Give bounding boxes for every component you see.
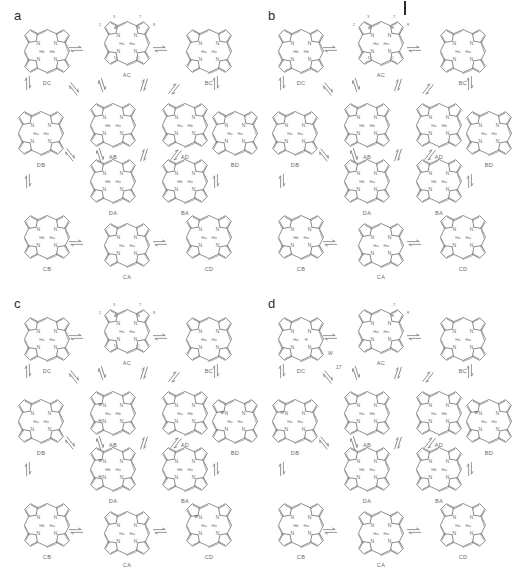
svg-text:Ha: Ha — [130, 41, 136, 46]
equilibrium-arrow — [66, 372, 82, 382]
svg-text:Ha: Ha — [238, 419, 244, 424]
svg-text:N: N — [103, 458, 107, 464]
svg-text:N: N — [48, 122, 52, 128]
equilibrium-arrow — [68, 526, 84, 536]
svg-text:N: N — [429, 114, 433, 120]
svg-text:Hb: Hb — [293, 49, 299, 54]
equilibrium-arrow — [406, 238, 422, 248]
svg-text:N: N — [120, 186, 124, 192]
svg-text:Ha: Ha — [50, 523, 56, 528]
svg-text:N: N — [199, 40, 203, 46]
svg-text:N: N — [446, 474, 450, 480]
svg-text:N: N — [120, 170, 124, 176]
svg-text:N: N — [470, 226, 474, 232]
svg-text:N: N — [31, 122, 35, 128]
svg-text:N: N — [199, 514, 203, 520]
svg-text:N: N — [216, 530, 220, 536]
svg-text:Hb: Hb — [116, 411, 122, 416]
svg-text:Ha: Ha — [442, 467, 448, 472]
tautomer-node-cd: NNNNHaHaCD — [424, 208, 502, 280]
svg-text:N: N — [216, 344, 220, 350]
tautomer-node-cd: NNNNHaHaCD — [170, 208, 248, 280]
svg-text:N: N — [120, 458, 124, 464]
svg-text:N: N — [37, 328, 41, 334]
svg-text:⊕: ⊕ — [98, 401, 102, 407]
svg-text:Ha: Ha — [492, 131, 498, 136]
svg-text:Ha: Ha — [130, 531, 136, 536]
svg-text:N: N — [496, 410, 500, 416]
svg-text:N: N — [479, 426, 483, 432]
svg-text:N: N — [453, 530, 457, 536]
svg-text:Ha: Ha — [384, 41, 390, 46]
svg-text:Hb: Hb — [39, 49, 45, 54]
svg-text:N: N — [291, 328, 295, 334]
svg-text:Ha: Ha — [293, 337, 299, 342]
svg-text:N: N — [374, 418, 378, 424]
svg-text:N: N — [134, 320, 138, 326]
equilibrium-arrow — [20, 176, 36, 186]
svg-text:Ha: Ha — [431, 123, 437, 128]
svg-text:N: N — [470, 242, 474, 248]
svg-text:N: N — [103, 170, 107, 176]
svg-text:N: N — [388, 32, 392, 38]
svg-text:⊕: ⊕ — [98, 457, 102, 463]
equilibrium-arrow — [152, 44, 168, 54]
svg-text:H: H — [305, 337, 308, 342]
svg-text:Hb: Hb — [442, 411, 448, 416]
equilibrium-arrow — [322, 526, 338, 536]
svg-text:Ha: Ha — [188, 467, 194, 472]
equilibrium-arrow — [274, 366, 290, 376]
svg-text:Ha: Ha — [442, 179, 448, 184]
equilibrium-arrow — [390, 150, 406, 160]
equilibrium-arrow — [320, 84, 336, 94]
svg-text:N: N — [374, 458, 378, 464]
svg-text:Ha: Ha — [119, 243, 125, 248]
svg-text:N: N — [291, 530, 295, 536]
equilibrium-arrow — [92, 150, 108, 160]
svg-text:N: N — [54, 242, 58, 248]
svg-text:N: N — [117, 522, 121, 528]
panel-b-label: b — [268, 8, 275, 23]
svg-text:N: N — [175, 418, 179, 424]
panel-a-label: a — [14, 8, 21, 23]
equilibrium-arrow — [152, 238, 168, 248]
equilibrium-arrow — [62, 438, 78, 448]
svg-text:N: N — [374, 170, 378, 176]
svg-text:N: N — [134, 48, 138, 54]
svg-text:N: N — [216, 40, 220, 46]
svg-text:N: N — [117, 250, 121, 256]
svg-text:B: B — [391, 313, 394, 318]
svg-text:Ha: Ha — [227, 419, 233, 424]
svg-text:N: N — [199, 56, 203, 62]
svg-text:N: N — [199, 328, 203, 334]
equilibrium-arrow — [68, 238, 84, 248]
tautomer-label: DB — [256, 162, 334, 168]
svg-text:Ha: Ha — [201, 523, 207, 528]
svg-text:N: N — [120, 418, 124, 424]
svg-text:Ha: Ha — [44, 131, 50, 136]
svg-text:N: N — [117, 320, 121, 326]
svg-text:N: N — [242, 426, 246, 432]
svg-text:N: N — [285, 410, 289, 416]
svg-text:N: N — [199, 530, 203, 536]
tautomer-node-cd: NNNNHaHaCD — [424, 496, 502, 568]
tautomer-label: CD — [170, 554, 248, 560]
svg-text:N: N — [225, 426, 229, 432]
svg-text:N: N — [48, 410, 52, 416]
svg-text:A: A — [114, 313, 117, 318]
svg-text:Ha: Ha — [455, 235, 461, 240]
svg-text:Ha: Ha — [33, 419, 39, 424]
svg-text:N: N — [242, 138, 246, 144]
equilibrium-arrow — [322, 332, 338, 342]
equilibrium-arrow — [346, 150, 362, 160]
equilibrium-arrow — [136, 368, 152, 378]
svg-text:N: N — [291, 242, 295, 248]
tautomer-node-db: NNNNHaHa⊖DB — [256, 392, 334, 464]
svg-text:3: 3 — [113, 302, 116, 307]
svg-text:Ha: Ha — [370, 179, 376, 184]
equilibrium-arrow — [406, 332, 422, 342]
svg-text:8: 8 — [407, 310, 410, 315]
equilibrium-arrow — [420, 84, 436, 94]
svg-text:Ha: Ha — [50, 235, 56, 240]
tautomer-node-ca: NNNNHaHaCA — [88, 216, 166, 288]
